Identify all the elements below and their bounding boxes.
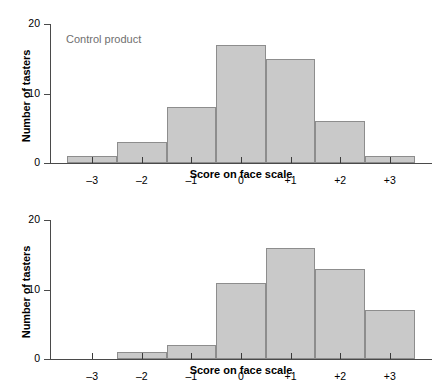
panel-control-product: Number of tasters Control product 01020–… (0, 0, 443, 196)
x-tick-1-6 (390, 353, 391, 359)
x-tick-1-0 (92, 353, 93, 359)
y-tick-10: 10 (44, 94, 50, 95)
bar-0-2 (167, 107, 217, 163)
x-tick-1-1 (142, 353, 143, 359)
bar-1-5 (315, 269, 365, 359)
x-tick-0-6 (390, 157, 391, 163)
y-tick-10: 10 (44, 290, 50, 291)
y-axis-line-bottom (50, 220, 51, 359)
x-tick-0-5 (340, 157, 341, 163)
x-tick-0-2 (191, 157, 192, 163)
y-tick-label-20: 20 (28, 17, 40, 29)
x-axis-line-top (50, 163, 432, 164)
bar-1-3 (216, 283, 266, 359)
x-tick-1-5 (340, 353, 341, 359)
plot-area-new-product: 01020–3–2–10+1+2+3 (50, 220, 432, 359)
y-tick-20: 20 (44, 220, 50, 221)
x-tick-1-4 (291, 353, 292, 359)
bar-1-4 (266, 248, 316, 359)
plot-area-control-product: 01020–3–2–10+1+2+3 (50, 24, 432, 163)
bar-0-3 (216, 45, 266, 163)
x-tick-1-3 (241, 353, 242, 359)
x-axis-title-bottom: Score on face scale (50, 364, 432, 376)
x-tick-0-0 (92, 157, 93, 163)
x-axis-line-bottom (50, 359, 432, 360)
y-axis-line-top (50, 24, 51, 163)
x-tick-0-1 (142, 157, 143, 163)
y-tick-20: 20 (44, 24, 50, 25)
y-tick-label-0: 0 (34, 352, 40, 364)
x-axis-title-top: Score on face scale (50, 168, 432, 180)
two-panel-histogram-figure: Number of tasters Control product 01020–… (0, 0, 443, 392)
panel-new-product: Number of tasters New product 01020–3–2–… (0, 196, 443, 392)
x-tick-1-2 (191, 353, 192, 359)
y-tick-label-0: 0 (34, 156, 40, 168)
bar-1-6 (365, 310, 415, 359)
y-tick-label-10: 10 (28, 87, 40, 99)
x-tick-0-3 (241, 157, 242, 163)
x-tick-0-4 (291, 157, 292, 163)
y-tick-label-20: 20 (28, 213, 40, 225)
y-tick-0: 0 (44, 359, 50, 360)
y-tick-0: 0 (44, 163, 50, 164)
bar-0-4 (266, 59, 316, 163)
y-tick-label-10: 10 (28, 283, 40, 295)
